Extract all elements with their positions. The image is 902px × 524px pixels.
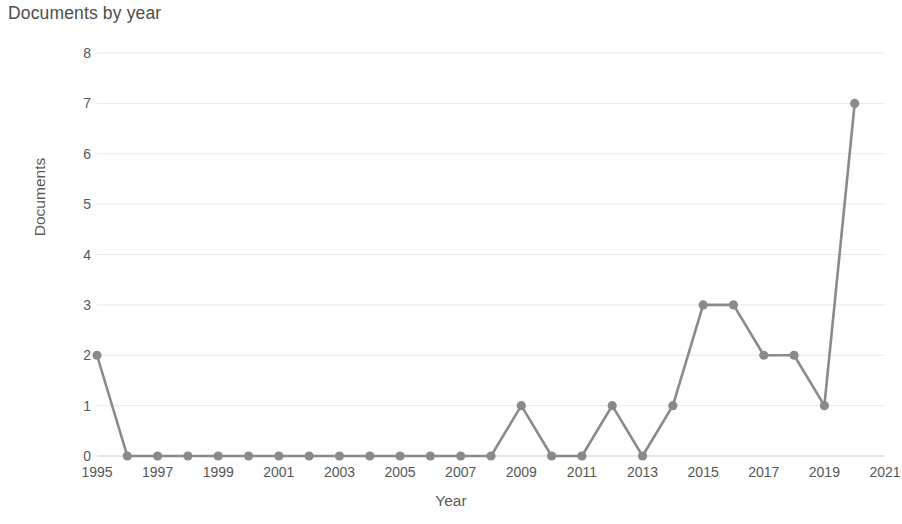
data-point[interactable] bbox=[123, 451, 132, 460]
data-point[interactable] bbox=[668, 401, 677, 410]
y-tick-label-4: 4 bbox=[61, 247, 91, 263]
series-line-documents bbox=[97, 103, 855, 456]
y-tick-label-0: 0 bbox=[61, 448, 91, 464]
data-point[interactable] bbox=[820, 401, 829, 410]
y-tick-label-6: 6 bbox=[61, 146, 91, 162]
data-point[interactable] bbox=[395, 451, 404, 460]
data-point[interactable] bbox=[456, 451, 465, 460]
data-point[interactable] bbox=[335, 451, 344, 460]
data-point[interactable] bbox=[699, 300, 708, 309]
data-point[interactable] bbox=[92, 351, 101, 360]
documents-by-year-chart: Documents by year Documents Year 0123456… bbox=[0, 0, 902, 524]
data-point[interactable] bbox=[577, 451, 586, 460]
data-point[interactable] bbox=[850, 99, 859, 108]
data-point[interactable] bbox=[789, 351, 798, 360]
y-tick-label-2: 2 bbox=[61, 347, 91, 363]
data-point[interactable] bbox=[183, 451, 192, 460]
y-tick-label-3: 3 bbox=[61, 297, 91, 313]
data-point[interactable] bbox=[365, 451, 374, 460]
data-point[interactable] bbox=[759, 351, 768, 360]
y-tick-label-7: 7 bbox=[61, 95, 91, 111]
data-point[interactable] bbox=[547, 451, 556, 460]
y-tick-label-5: 5 bbox=[61, 196, 91, 212]
data-point[interactable] bbox=[274, 451, 283, 460]
data-point[interactable] bbox=[517, 401, 526, 410]
data-point[interactable] bbox=[214, 451, 223, 460]
data-point[interactable] bbox=[486, 451, 495, 460]
data-point[interactable] bbox=[426, 451, 435, 460]
data-point[interactable] bbox=[638, 451, 647, 460]
data-point[interactable] bbox=[305, 451, 314, 460]
data-point[interactable] bbox=[608, 401, 617, 410]
plot-canvas bbox=[0, 0, 902, 524]
data-point[interactable] bbox=[153, 451, 162, 460]
y-tick-label-1: 1 bbox=[61, 398, 91, 414]
y-axis-ticks: 012345678 bbox=[55, 50, 91, 460]
data-point[interactable] bbox=[729, 300, 738, 309]
series-markers bbox=[92, 99, 859, 461]
gridlines bbox=[97, 53, 885, 456]
y-tick-label-8: 8 bbox=[61, 45, 91, 61]
data-point[interactable] bbox=[244, 451, 253, 460]
